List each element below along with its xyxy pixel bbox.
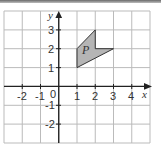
y-tick-label: -1 [45, 99, 55, 111]
y-tick-label: 3 [48, 24, 54, 36]
shape-p-label: P [81, 43, 90, 57]
x-tick-label: 3 [110, 90, 116, 102]
x-tick-label: -2 [17, 90, 27, 102]
coordinate-grid: P x y -2 -1 0 1 2 3 4 3 2 1 -1 -2 [0, 0, 161, 155]
grid-lines [4, 11, 150, 143]
x-tick-label: 1 [74, 90, 80, 102]
y-tick-label: 1 [48, 62, 54, 74]
y-tick-label: -2 [45, 118, 55, 130]
y-tick-label: 2 [48, 43, 54, 55]
y-axis-arrow-icon [55, 11, 62, 18]
x-tick-label: 2 [92, 90, 98, 102]
x-axis-label: x [141, 88, 147, 100]
y-axis-label: y [47, 9, 53, 21]
x-tick-label: 4 [128, 90, 134, 102]
x-tick-label: -1 [35, 90, 45, 102]
